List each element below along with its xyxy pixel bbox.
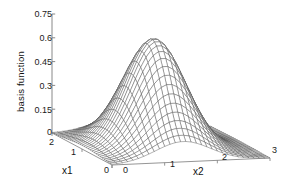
z-tick-3: 0.3 xyxy=(26,82,52,91)
x2-tick-3: 3 xyxy=(272,146,277,155)
z-tick-2: 0.45 xyxy=(26,58,52,67)
x2-tick-0: 0 xyxy=(123,166,128,175)
x1-tick-1: 1 xyxy=(71,148,76,157)
z-tick-1: 0.6 xyxy=(26,34,52,43)
x1-tick-0: 0 xyxy=(104,166,109,175)
basis-function-surface-figure: basis function 0.75 0.6 0.45 0.3 0.15 0 … xyxy=(0,0,285,192)
z-tick-4: 0.15 xyxy=(26,106,52,115)
z-axis-title: basis function xyxy=(16,51,26,112)
x1-axis-title: x1 xyxy=(62,166,73,176)
x2-tick-2: 2 xyxy=(222,153,227,162)
x1-tick-2: 2 xyxy=(49,138,54,147)
x2-tick-1: 1 xyxy=(170,160,175,169)
z-tick-5: 0 xyxy=(26,128,52,137)
surface-mesh xyxy=(52,39,270,164)
z-tick-0: 0.75 xyxy=(26,10,52,19)
x2-axis-title: x2 xyxy=(193,167,204,177)
surface-plot-canvas xyxy=(0,0,285,192)
